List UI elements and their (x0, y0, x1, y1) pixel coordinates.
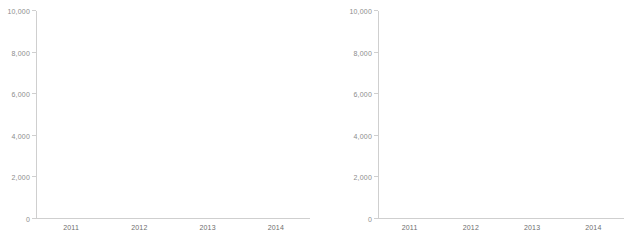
x-axis-category-label: 2014 (246, 219, 306, 231)
x-axis-category-label: 2011 (383, 219, 437, 231)
chart-panel-right: 02,0004,0006,0008,00010,000 201120122013… (320, 0, 635, 236)
y-axis-tick-label: 10,000 (7, 8, 30, 15)
plot-area-right: 02,0004,0006,0008,00010,000 201120122013… (378, 11, 624, 219)
y-axis-tick (32, 176, 36, 177)
bar-group[interactable] (383, 11, 437, 218)
y-axis-tick (32, 93, 36, 94)
y-axis-tick (374, 93, 378, 94)
y-axis-tick (374, 52, 378, 53)
x-axis-category-labels-right: 2011201220132014 (379, 219, 624, 231)
bar-group[interactable] (444, 11, 498, 218)
y-axis-tick-label: 2,000 (11, 174, 30, 181)
y-axis-tick-label: 10,000 (349, 8, 372, 15)
y-axis-tick (374, 135, 378, 136)
y-axis-tick-label: 4,000 (353, 132, 372, 139)
y-axis-tick (374, 176, 378, 177)
bar-group[interactable] (246, 11, 306, 218)
plot-area-left: 02,0004,0006,0008,00010,000 201120122013… (36, 11, 310, 219)
y-axis-tick (32, 135, 36, 136)
y-axis-tick-label: 4,000 (11, 132, 30, 139)
x-axis-category-label: 2013 (178, 219, 238, 231)
x-axis-category-labels-left: 2011201220132014 (37, 219, 310, 231)
y-axis-tick-label: 8,000 (11, 49, 30, 56)
y-axis-tick-label: 6,000 (11, 91, 30, 98)
y-axis-tick-label: 0 (368, 216, 372, 223)
x-axis-category-label: 2012 (444, 219, 498, 231)
bar-group[interactable] (566, 11, 620, 218)
bar-group[interactable] (178, 11, 238, 218)
y-axis-tick-label: 8,000 (353, 49, 372, 56)
x-axis-category-label: 2014 (566, 219, 620, 231)
y-axis-tick (374, 10, 378, 11)
y-axis-tick-label: 0 (26, 216, 30, 223)
bar-group[interactable] (109, 11, 169, 218)
y-axis-tick (32, 218, 36, 219)
y-axis-tick (32, 10, 36, 11)
x-axis-category-label: 2012 (109, 219, 169, 231)
y-axis-tick-label: 6,000 (353, 91, 372, 98)
y-axis-tick (374, 218, 378, 219)
y-axis-tick (32, 52, 36, 53)
x-axis-category-label: 2011 (41, 219, 101, 231)
y-axis-tick-label: 2,000 (353, 174, 372, 181)
chart-panel-left: 02,0004,0006,0008,00010,000 201120122013… (0, 0, 320, 236)
bar-series-left (37, 11, 310, 218)
bar-group[interactable] (41, 11, 101, 218)
stacked-bar-chart-figure: 02,0004,0006,0008,00010,000 201120122013… (0, 0, 635, 236)
bar-group[interactable] (505, 11, 559, 218)
bar-series-right (379, 11, 624, 218)
x-axis-category-label: 2013 (505, 219, 559, 231)
